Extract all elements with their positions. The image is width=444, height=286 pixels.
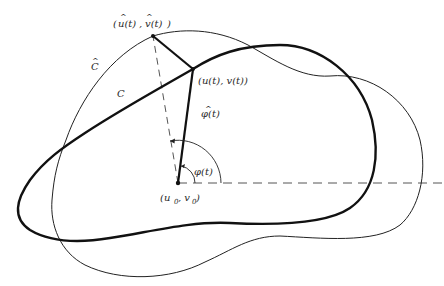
- svg-text:): ): [166, 18, 171, 29]
- svg-text:C: C: [91, 61, 99, 72]
- normal-segment: [153, 36, 193, 69]
- phi-label: φ(t): [194, 166, 213, 177]
- svg-text:v(t): v(t): [145, 18, 163, 29]
- curve-point-label: (u(t), v(t)): [198, 75, 248, 86]
- phi-hat-label: ^ φ(t): [201, 104, 220, 119]
- hat-point: [151, 34, 155, 38]
- svg-text:): ): [195, 192, 200, 203]
- hat-point-label: ^ ^ ( u(t) , v(t) ): [113, 12, 171, 29]
- curve-c-hat-label: ^ C: [91, 56, 99, 72]
- svg-text:u(t): u(t): [118, 18, 136, 29]
- dashed-radial-line: [153, 36, 178, 183]
- svg-text:, v: , v: [178, 192, 190, 203]
- center-point: [176, 181, 180, 185]
- svg-text:(u: (u: [160, 192, 170, 203]
- center-point-label: (u 0 , v 0 ): [160, 192, 200, 206]
- svg-text:,: ,: [139, 18, 142, 29]
- curve-point: [191, 67, 195, 71]
- angle-arc-phi: [181, 166, 195, 183]
- parametric-curve-diagram: ^ ^ ( u(t) , v(t) ) (u(t), v(t)) ^ C C ^…: [0, 0, 444, 286]
- curve-c-label: C: [117, 88, 125, 99]
- curve-c: [18, 45, 376, 241]
- curve-c-hat: [52, 31, 423, 277]
- svg-text:φ(t): φ(t): [201, 108, 220, 119]
- radius-segment: [178, 69, 193, 183]
